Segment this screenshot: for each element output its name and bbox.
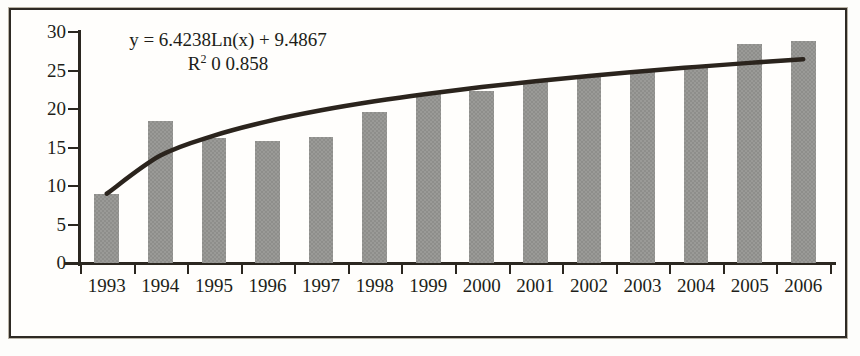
- x-axis-tick: [776, 264, 778, 274]
- y-axis-tick: [68, 224, 79, 226]
- bar: [309, 137, 334, 263]
- figure-root: 051015202530 199319941995199619971998199…: [0, 0, 860, 356]
- y-axis-tick: [68, 31, 79, 33]
- y-axis-tick-label: 0: [28, 253, 66, 272]
- bar: [469, 91, 494, 263]
- bar: [255, 141, 280, 263]
- x-axis-tick: [562, 264, 564, 274]
- r-squared-value: 0 0.858: [206, 53, 268, 74]
- y-axis-tick: [68, 147, 79, 149]
- x-axis-tick: [830, 264, 832, 274]
- x-axis-tick-label: 1999: [401, 276, 455, 295]
- bar: [416, 93, 441, 263]
- y-axis-tick-label-wrap: 25: [18, 71, 66, 72]
- bar: [362, 112, 387, 263]
- y-axis-tick-label: 20: [28, 99, 66, 118]
- y-axis-tick-label: 5: [28, 215, 66, 234]
- regression-annotation: y = 6.4238Ln(x) + 9.4867 R2 0 0.858: [98, 28, 358, 76]
- bar: [684, 66, 709, 263]
- x-axis-tick: [616, 264, 618, 274]
- x-axis-tick-label: 1995: [187, 276, 241, 295]
- regression-equation-text: y = 6.4238Ln(x) + 9.4867: [129, 29, 327, 50]
- x-axis-tick: [187, 264, 189, 274]
- x-axis-tick-label: 2001: [509, 276, 563, 295]
- y-axis-tick-label-wrap: 10: [18, 186, 66, 187]
- bar: [523, 81, 548, 263]
- x-axis-tick-label: 1997: [294, 276, 348, 295]
- y-axis-tick-label-wrap: 30: [18, 32, 66, 33]
- x-axis-tick-label: 2003: [616, 276, 670, 295]
- y-axis-tick-label-wrap: 20: [18, 109, 66, 110]
- x-axis-tick: [348, 264, 350, 274]
- bar: [148, 121, 173, 263]
- bar: [630, 72, 655, 263]
- x-axis-tick: [455, 264, 457, 274]
- x-axis-tick: [294, 264, 296, 274]
- r-squared-label: R: [188, 53, 201, 74]
- y-axis-tick: [68, 108, 79, 110]
- x-axis-tick-label: 1998: [348, 276, 402, 295]
- bar: [202, 138, 227, 264]
- bar: [791, 41, 816, 263]
- x-axis-tick-label: 2006: [776, 276, 830, 295]
- y-axis-tick-label-wrap: 15: [18, 148, 66, 149]
- y-axis-tick-label: 10: [28, 176, 66, 195]
- x-axis-tick-label: 2000: [455, 276, 509, 295]
- y-axis-tick: [68, 185, 79, 187]
- y-axis-tick-label: 30: [28, 22, 66, 41]
- x-axis-tick: [241, 264, 243, 274]
- bar: [737, 44, 762, 263]
- r-squared-text: R2 0 0.858: [98, 52, 358, 76]
- x-axis-tick: [509, 264, 511, 274]
- y-axis-tick: [68, 70, 79, 72]
- x-axis-tick-label: 1996: [241, 276, 295, 295]
- x-axis-tick: [134, 264, 136, 274]
- y-axis-tick-label-wrap: 0: [18, 263, 66, 264]
- x-axis-tick-label: 2005: [723, 276, 777, 295]
- y-axis-tick-label-wrap: 5: [18, 225, 66, 226]
- x-axis-tick: [723, 264, 725, 274]
- y-axis-tick-label: 15: [28, 138, 66, 157]
- x-axis-tick: [669, 264, 671, 274]
- bar: [577, 77, 602, 263]
- x-axis-tick-label: 2004: [669, 276, 723, 295]
- x-axis-tick-label: 1993: [80, 276, 134, 295]
- x-axis-tick: [80, 264, 82, 274]
- x-axis-tick: [401, 264, 403, 274]
- bar: [94, 194, 119, 263]
- x-axis-tick-label: 2002: [562, 276, 616, 295]
- x-axis-tick-label: 1994: [134, 276, 188, 295]
- y-axis-tick-label: 25: [28, 61, 66, 80]
